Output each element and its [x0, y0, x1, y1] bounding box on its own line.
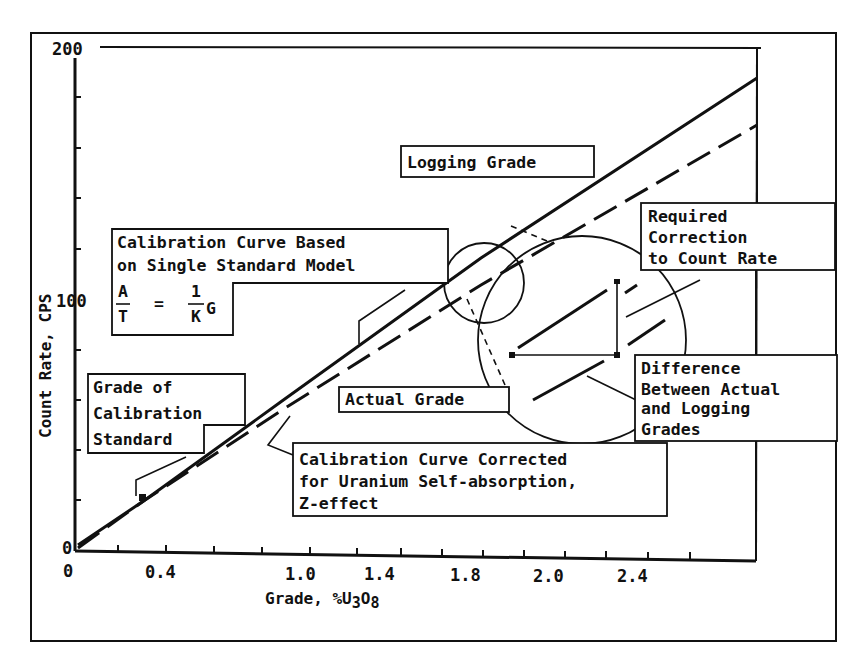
annotation-calib-corrected: Calibration Curve Corrected for Uranium … [293, 443, 667, 516]
x-tick-label-2.0: 2.0 [533, 566, 564, 586]
annotation-required-correction: Required Correction to Count Rate [641, 203, 835, 270]
x-tick-label-1.0: 1.0 [285, 564, 316, 584]
x-tick-label-1.8: 1.8 [450, 565, 481, 585]
svg-text:Between Actual: Between Actual [641, 380, 780, 399]
annotation-logging-grade: Logging Grade [401, 146, 594, 177]
annotation-actual-grade: Actual Grade [339, 387, 509, 412]
y-tick-label-100: 100 [56, 291, 87, 311]
svg-text:Logging Grade: Logging Grade [407, 153, 536, 172]
annotation-difference: Difference Between Actual and Logging Gr… [635, 355, 837, 441]
svg-text:A: A [118, 282, 128, 301]
svg-text:1: 1 [191, 282, 201, 301]
svg-text:Calibration Curve Corrected: Calibration Curve Corrected [299, 450, 567, 469]
svg-text:Difference: Difference [641, 359, 740, 378]
svg-text:Required: Required [648, 207, 727, 226]
svg-text:Calibration Curve Based: Calibration Curve Based [117, 233, 345, 252]
svg-text:Z-effect: Z-effect [299, 494, 378, 513]
svg-text:for Uranium Self-absorption,: for Uranium Self-absorption, [299, 472, 577, 491]
svg-text:on Single Standard Model: on Single Standard Model [117, 256, 355, 275]
svg-text:=: = [154, 294, 164, 313]
x-axis [75, 545, 756, 561]
svg-text:Calibration: Calibration [93, 404, 202, 423]
calibration-standard-point [139, 494, 146, 501]
figure-frame [31, 33, 836, 641]
svg-text:K: K [191, 307, 201, 326]
svg-text:Grade of: Grade of [93, 378, 172, 397]
x-axis-title: Grade, %U3O8 [265, 589, 379, 612]
y-tick-label-0: 0 [62, 538, 72, 558]
svg-text:Correction: Correction [648, 228, 747, 247]
svg-text:Grades: Grades [641, 420, 701, 439]
svg-text:Actual Grade: Actual Grade [345, 390, 464, 409]
svg-text:and Logging: and Logging [641, 399, 750, 418]
x-tick-label-2.4: 2.4 [617, 566, 648, 586]
svg-text:T: T [118, 307, 128, 326]
svg-text:G: G [206, 299, 216, 318]
svg-text:Standard: Standard [93, 430, 172, 449]
y-axis-title: Count Rate, CPS [36, 294, 55, 439]
y-tick-label-200: 200 [52, 39, 83, 59]
x-tick-label-0.4: 0.4 [145, 562, 176, 582]
svg-text:to Count Rate: to Count Rate [648, 249, 777, 268]
annotation-grade-of-standard: Grade of Calibration Standard [88, 374, 245, 453]
x-tick-label-1.4: 1.4 [364, 564, 395, 584]
calibration-chart: 200 100 0 0 0.4 1.0 1.4 1.8 2.0 2.4 Grad… [0, 0, 868, 669]
x-tick-label-0: 0 [63, 561, 73, 581]
